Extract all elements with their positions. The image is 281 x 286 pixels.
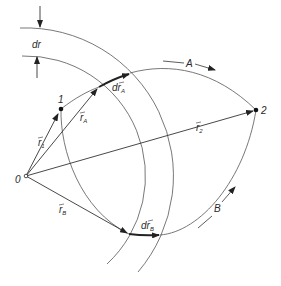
point-2-label: 2 xyxy=(260,105,267,116)
vector-rB xyxy=(26,176,127,233)
path-b xyxy=(61,109,256,235)
label-drB: drB xyxy=(141,220,154,232)
point-1 xyxy=(59,107,64,112)
path-a-direction: A xyxy=(163,58,215,70)
dr-label: dr xyxy=(32,39,42,50)
svg-text:r1: r1 xyxy=(38,137,45,149)
path-a-label: A xyxy=(185,58,193,69)
svg-text:rB: rB xyxy=(59,204,66,216)
diagram-canvas: dr 0 1 2 r1 rA r2 rB drA drB xyxy=(0,0,281,286)
point-1-label: 1 xyxy=(58,94,64,105)
svg-text:r2: r2 xyxy=(196,122,203,134)
svg-text:drA: drA xyxy=(112,82,125,94)
origin-label: 0 xyxy=(15,174,21,185)
vector-r2 xyxy=(26,111,253,176)
svg-text:rA: rA xyxy=(80,112,87,124)
label-rA: rA xyxy=(80,112,87,124)
dr-indicator: dr xyxy=(32,6,42,78)
label-drA: drA xyxy=(112,82,125,94)
point-2 xyxy=(254,108,259,113)
origin-point xyxy=(24,174,28,178)
label-r2: r2 xyxy=(196,122,203,134)
svg-text:drB: drB xyxy=(141,220,154,232)
label-rB: rB xyxy=(59,204,66,216)
path-b-direction: B xyxy=(198,187,235,228)
path-b-label: B xyxy=(214,203,221,214)
vector-drB xyxy=(129,234,159,235)
arrow-right-icon xyxy=(195,64,215,70)
arrow-up-icon xyxy=(222,187,235,202)
label-r1: r1 xyxy=(38,137,45,149)
